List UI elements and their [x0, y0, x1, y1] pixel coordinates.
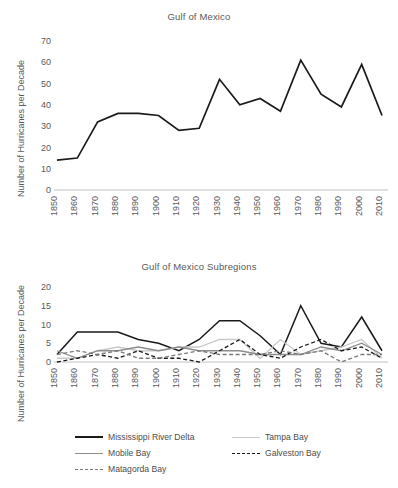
legend-swatch-matagorda-bay	[75, 469, 103, 470]
x-tick-label: 1980	[313, 196, 323, 216]
series-line-matagorda-bay	[57, 351, 382, 362]
chart-plot-top: 0102030405060701850186018701880189019001…	[0, 0, 398, 244]
legend-item-tampa-bay: Tampa Bay	[232, 432, 308, 442]
legend-swatch-mobile-bay	[75, 453, 103, 454]
x-tick-label: 2000	[354, 196, 364, 216]
legend-item-mobile-bay: Mobile Bay	[75, 448, 151, 458]
x-tick-label: 1890	[130, 196, 140, 216]
x-tick-label: 1970	[293, 368, 303, 388]
y-tick-label: 40	[41, 100, 51, 110]
legend-label-mississippi-river-delta: Mississippi River Delta	[108, 432, 194, 442]
chart-legend: Mississippi River Delta Tampa Bay Mobile…	[0, 432, 398, 482]
legend-swatch-tampa-bay	[232, 437, 260, 438]
figure-container: Gulf of Mexico Number of Hurricanes per …	[0, 0, 398, 488]
legend-label-mobile-bay: Mobile Bay	[108, 448, 151, 458]
legend-item-matagorda-bay: Matagorda Bay	[75, 464, 166, 474]
x-tick-label: 1870	[90, 368, 100, 388]
y-tick-label: 30	[41, 121, 51, 131]
series-line-mississippi-river-delta	[57, 306, 382, 355]
legend-label-galveston-bay: Galveston Bay	[265, 448, 321, 458]
x-tick-label: 1870	[90, 196, 100, 216]
y-tick-label: 0	[46, 185, 51, 195]
x-tick-label: 1990	[333, 368, 343, 388]
x-tick-label: 1890	[130, 368, 140, 388]
y-tick-label: 0	[46, 357, 51, 367]
x-tick-label: 1900	[151, 196, 161, 216]
y-tick-label: 15	[41, 301, 51, 311]
chart-title-top: Gulf of Mexico	[0, 11, 398, 22]
x-tick-label: 1970	[293, 196, 303, 216]
x-tick-label: 1930	[212, 368, 222, 388]
y-tick-label: 60	[41, 57, 51, 67]
chart-panel-gulf-of-mexico: Gulf of Mexico Number of Hurricanes per …	[0, 0, 398, 244]
y-tick-label: 10	[41, 320, 51, 330]
chart-plot-bottom: 0510152018501860187018801890190019101920…	[0, 250, 398, 430]
legend-swatch-mississippi-river-delta	[75, 436, 103, 438]
legend-item-galveston-bay: Galveston Bay	[232, 448, 321, 458]
series-line-gulf-of-mexico	[57, 60, 382, 160]
x-tick-label: 2000	[354, 368, 364, 388]
x-tick-label: 2010	[374, 368, 384, 388]
x-tick-label: 1900	[151, 368, 161, 388]
y-tick-label: 20	[41, 282, 51, 292]
legend-label-matagorda-bay: Matagorda Bay	[108, 464, 166, 474]
x-tick-label: 1910	[171, 196, 181, 216]
legend-label-tampa-bay: Tampa Bay	[265, 432, 308, 442]
x-tick-label: 1940	[232, 368, 242, 388]
y-axis-label-top: Number of Hurricanes per Decade	[16, 60, 26, 197]
chart-title-bottom: Gulf of Mexico Subregions	[0, 261, 398, 272]
x-tick-label: 2010	[374, 196, 384, 216]
y-tick-label: 70	[41, 36, 51, 46]
y-tick-label: 50	[41, 79, 51, 89]
x-tick-label: 1940	[232, 196, 242, 216]
legend-swatch-galveston-bay	[232, 453, 260, 454]
x-tick-label: 1980	[313, 368, 323, 388]
chart-panel-gulf-of-mexico-subregions: Gulf of Mexico Subregions Number of Hurr…	[0, 250, 398, 430]
x-tick-label: 1930	[212, 196, 222, 216]
x-tick-label: 1860	[69, 368, 79, 388]
x-tick-label: 1910	[171, 368, 181, 388]
y-axis-label-bottom: Number of Hurricanes per Decade	[16, 285, 26, 422]
x-tick-label: 1880	[110, 368, 120, 388]
x-tick-label: 1880	[110, 196, 120, 216]
legend-item-mississippi-river-delta: Mississippi River Delta	[75, 432, 194, 442]
x-tick-label: 1950	[252, 368, 262, 388]
x-tick-label: 1850	[49, 368, 59, 388]
x-tick-label: 1990	[333, 196, 343, 216]
x-tick-label: 1950	[252, 196, 262, 216]
x-tick-label: 1860	[69, 196, 79, 216]
x-tick-label: 1960	[272, 196, 282, 216]
x-tick-label: 1920	[191, 368, 201, 388]
y-tick-label: 20	[41, 143, 51, 153]
y-tick-label: 10	[41, 164, 51, 174]
x-tick-label: 1920	[191, 196, 201, 216]
x-tick-label: 1960	[272, 368, 282, 388]
y-tick-label: 5	[46, 338, 51, 348]
x-tick-label: 1850	[49, 196, 59, 216]
